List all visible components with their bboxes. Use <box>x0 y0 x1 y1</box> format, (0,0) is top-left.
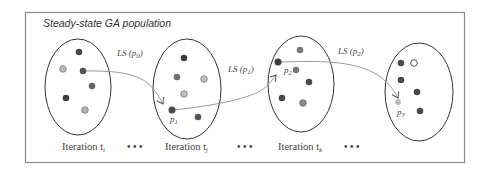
transition-label-p0: LS (p0) <box>116 48 143 60</box>
transition-label-p2: LS (p2) <box>337 46 364 58</box>
iteration-label-k: Iteration tk <box>278 141 323 154</box>
transition-arrow-p1 <box>174 75 276 110</box>
point-label-p1: p1 <box>169 114 178 125</box>
point-p1 <box>169 107 176 114</box>
ellipsis-1: • • • <box>127 141 143 152</box>
point-label-p2: p2 <box>283 65 293 76</box>
transition-arrow-p2 <box>281 61 398 98</box>
iteration-label-i: Iteration ti <box>62 141 105 154</box>
point-label-p3: p3 <box>396 107 406 118</box>
diagram-title: Steady-state GA population <box>43 17 171 29</box>
population-ellipse-j <box>153 39 221 139</box>
individuals-j <box>169 55 208 121</box>
transition-arrow-p0 <box>83 71 163 104</box>
transition-label-p1: LS (p1) <box>227 64 254 76</box>
point-p2 <box>275 59 282 66</box>
individuals-k <box>275 47 313 107</box>
point-p3 <box>395 99 401 105</box>
individuals-i <box>60 49 96 114</box>
ellipsis-3: • • • <box>344 141 360 152</box>
ellipsis-2: • • • <box>237 141 253 152</box>
iteration-label-j: Iteration tj <box>165 141 208 154</box>
